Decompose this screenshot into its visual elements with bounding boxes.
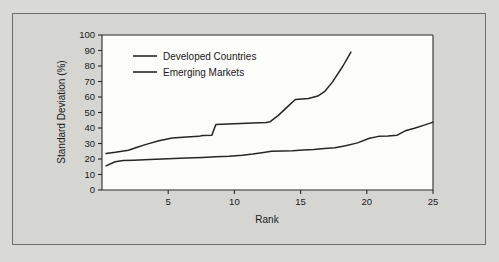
figure-root: 0102030405060708090100 510152025 Develop… (0, 0, 499, 262)
line-chart: 0102030405060708090100 510152025 Develop… (13, 14, 487, 246)
x-tick-label: 5 (166, 196, 171, 207)
y-tick-label: 100 (79, 29, 95, 40)
x-tick-label: 10 (229, 196, 240, 207)
legend-label: Developed Countries (163, 51, 256, 62)
y-tick-label: 90 (84, 45, 95, 56)
y-tick-label: 10 (84, 169, 95, 180)
y-axis-ticks: 0102030405060708090100 (79, 29, 102, 195)
plot-area-background (102, 35, 433, 190)
figure-outer-border: 0102030405060708090100 510152025 Develop… (12, 13, 486, 245)
x-axis-title: Rank (255, 214, 279, 225)
y-tick-label: 40 (84, 122, 95, 133)
y-tick-label: 80 (84, 60, 95, 71)
y-tick-label: 50 (84, 107, 95, 118)
y-axis-title: Standard Deviation (%) (56, 60, 67, 163)
y-tick-label: 30 (84, 138, 95, 149)
y-tick-label: 0 (90, 184, 95, 195)
y-tick-label: 70 (84, 76, 95, 87)
x-tick-label: 15 (295, 196, 306, 207)
y-tick-label: 60 (84, 91, 95, 102)
x-tick-label: 25 (428, 196, 439, 207)
legend-label: Emerging Markets (163, 67, 244, 78)
x-tick-label: 20 (362, 196, 373, 207)
x-axis-ticks: 510152025 (166, 190, 439, 207)
y-tick-label: 20 (84, 153, 95, 164)
